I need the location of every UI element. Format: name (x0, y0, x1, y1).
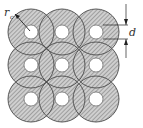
center-hole (55, 25, 69, 39)
circle-grid-diagram: r c d (0, 0, 143, 128)
dimension-label: d (129, 26, 136, 39)
center-hole (89, 58, 103, 72)
center-hole (55, 92, 69, 106)
center-hole (24, 92, 38, 106)
center-hole (89, 25, 103, 39)
center-hole (89, 92, 103, 106)
center-hole (24, 58, 38, 72)
center-hole (55, 58, 69, 72)
center-holes (24, 25, 103, 106)
